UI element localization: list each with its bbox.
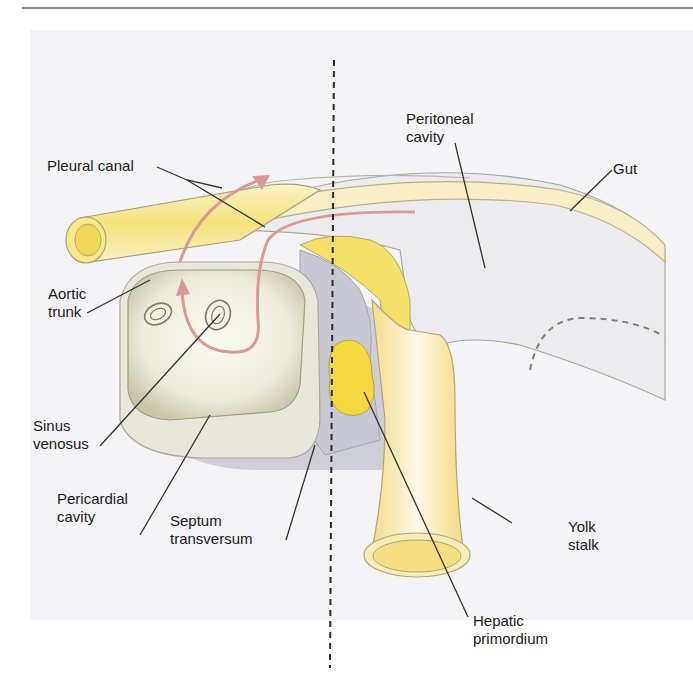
- label-aortic-trunk: Aortic trunk: [48, 285, 86, 321]
- label-peritoneal-cavity: Peritoneal cavity: [406, 110, 474, 146]
- label-sinus-venosus: Sinus venosus: [33, 417, 89, 453]
- label-gut: Gut: [613, 160, 637, 178]
- label-pleural-canal: Pleural canal: [47, 157, 134, 175]
- label-hepatic-primordium: Hepatic primordium: [473, 612, 548, 648]
- label-septum-transversum: Septum transversum: [170, 512, 253, 548]
- label-pericardial-cavity: Pericardial cavity: [57, 490, 128, 526]
- diagram-artwork: [0, 0, 693, 678]
- label-yolk-stalk: Yolk stalk: [568, 518, 599, 554]
- pericardial-cavity: [128, 270, 305, 420]
